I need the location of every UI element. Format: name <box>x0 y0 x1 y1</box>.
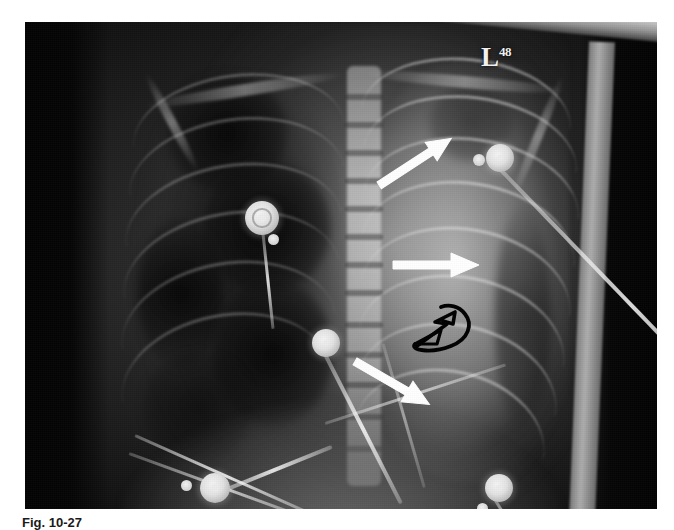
electrode-snap <box>181 480 192 491</box>
left-side-marker: L48 <box>481 44 511 71</box>
electrode-core <box>211 484 218 491</box>
electrode-snap <box>268 234 279 245</box>
side-marker-letter: L <box>481 42 499 72</box>
chest-radiograph-image: L48 <box>25 22 657 509</box>
electrode-lower-left <box>200 473 230 503</box>
electrode-core <box>496 485 503 492</box>
electrode-central <box>312 329 340 357</box>
electrode-snap <box>477 503 488 509</box>
arrow-middle <box>393 250 493 284</box>
arrow-lower <box>351 352 471 422</box>
electrode-lower-right <box>485 474 513 502</box>
electrode-core <box>497 155 504 162</box>
electrode-core <box>323 340 330 347</box>
electrode-upper-right <box>486 144 514 172</box>
electrode-upper-left <box>245 201 279 235</box>
side-marker-superscript: 48 <box>499 44 511 59</box>
film-left-gutter <box>25 22 109 509</box>
open-curved-arrow <box>407 294 487 358</box>
figure-root: L48 Fig. 10-27 <box>0 0 674 530</box>
figure-caption: Fig. 10-27 <box>22 515 82 530</box>
arrow-upper <box>373 120 489 190</box>
